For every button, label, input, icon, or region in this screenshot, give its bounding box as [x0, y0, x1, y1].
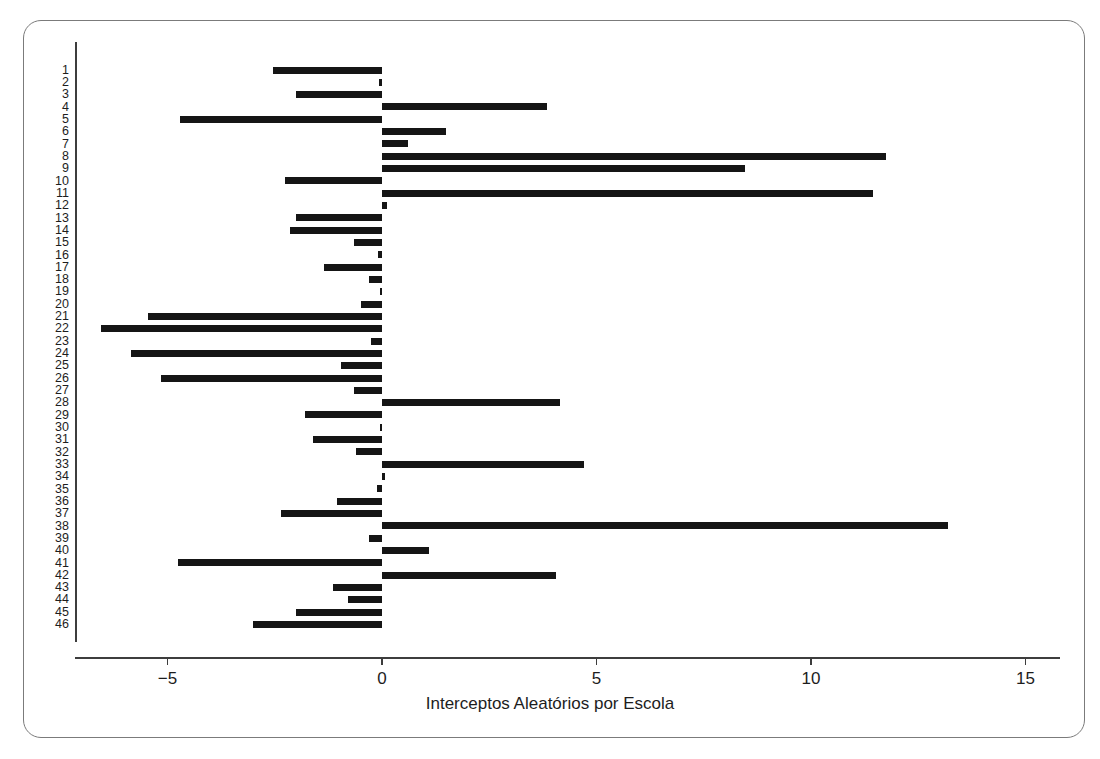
- bar: [382, 399, 560, 406]
- x-axis-title: Interceptos Aleatórios por Escola: [0, 694, 1100, 714]
- bar: [354, 387, 382, 394]
- x-axis-tick-label: 5: [592, 669, 601, 689]
- bar: [377, 485, 382, 492]
- bar: [296, 91, 382, 98]
- bar: [369, 276, 382, 283]
- bar: [382, 522, 948, 529]
- bar: [131, 350, 382, 357]
- bar: [281, 510, 382, 517]
- plot-area: 1234567891011121314151617181920212223242…: [0, 0, 1100, 759]
- bar: [361, 301, 382, 308]
- y-axis-tick-label: 9: [62, 162, 69, 175]
- x-axis-tick: [167, 657, 169, 665]
- y-axis-tick-label: 46: [55, 618, 69, 631]
- y-axis-line: [75, 42, 77, 642]
- bar: [382, 128, 446, 135]
- bar: [382, 103, 547, 110]
- x-axis-tick-label: 15: [1016, 669, 1035, 689]
- bar: [382, 165, 745, 172]
- bar: [382, 140, 408, 147]
- bar: [382, 572, 556, 579]
- x-axis-tick-label: 0: [377, 669, 386, 689]
- y-axis-tick-labels: 1234567891011121314151617181920212223242…: [40, 0, 69, 759]
- y-axis-tick-label: 25: [55, 359, 69, 372]
- x-axis-tick: [1025, 657, 1027, 665]
- bar: [178, 559, 382, 566]
- y-axis-tick-label: 12: [55, 199, 69, 212]
- bar: [290, 227, 382, 234]
- x-axis-tick: [810, 657, 812, 665]
- bar: [356, 448, 382, 455]
- bar: [324, 264, 382, 271]
- x-axis-tick: [381, 657, 383, 665]
- bar: [305, 411, 382, 418]
- bar: [341, 362, 382, 369]
- bar: [253, 621, 382, 628]
- y-axis-tick-label: 37: [55, 507, 69, 520]
- bar: [285, 177, 382, 184]
- bar: [382, 190, 873, 197]
- bar: [296, 214, 382, 221]
- x-axis-tick-label: −5: [158, 669, 177, 689]
- bar: [348, 596, 382, 603]
- x-axis-line: [75, 657, 1060, 659]
- bar: [382, 547, 429, 554]
- y-axis-tick-label: 28: [55, 396, 69, 409]
- bar: [380, 424, 382, 431]
- bar: [378, 251, 382, 258]
- bar: [313, 436, 382, 443]
- y-axis-tick-label: 34: [55, 470, 69, 483]
- bar: [337, 498, 382, 505]
- bar: [369, 535, 382, 542]
- bar: [380, 288, 382, 295]
- y-axis-tick-label: 31: [55, 433, 69, 446]
- x-axis-tick-label: 10: [802, 669, 821, 689]
- y-axis-tick-label: 3: [62, 88, 69, 101]
- bar: [161, 375, 382, 382]
- bar: [382, 153, 886, 160]
- bar: [148, 313, 382, 320]
- y-axis-tick-label: 15: [55, 236, 69, 249]
- x-axis-tick: [596, 657, 598, 665]
- bar: [101, 325, 382, 332]
- y-axis-tick-label: 40: [55, 544, 69, 557]
- bar: [382, 202, 387, 209]
- bar: [273, 67, 382, 74]
- bar: [333, 584, 382, 591]
- bar: [296, 609, 382, 616]
- bar: [382, 473, 385, 480]
- bar: [379, 79, 382, 86]
- bar: [180, 116, 382, 123]
- y-axis-tick-label: 6: [62, 125, 69, 138]
- bar: [354, 239, 382, 246]
- bar: [371, 338, 382, 345]
- bar: [382, 461, 584, 468]
